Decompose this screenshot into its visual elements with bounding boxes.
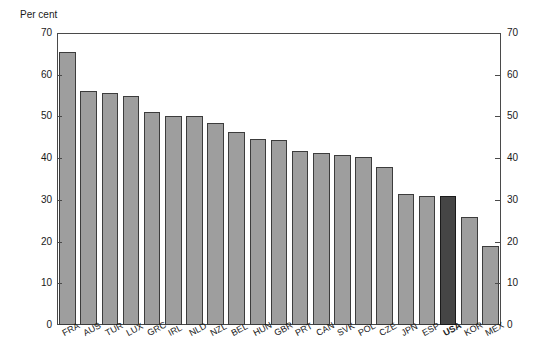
- tick-mark-right: [495, 75, 500, 76]
- bar-nld: [186, 116, 202, 325]
- y-tick-left-60: 60: [22, 70, 52, 80]
- bar-hun: [250, 139, 266, 325]
- y-tick-right-40: 40: [507, 153, 537, 163]
- y-axis-unit-label: Per cent: [20, 9, 57, 20]
- y-tick-left-40: 40: [22, 153, 52, 163]
- tick-mark-right: [495, 283, 500, 284]
- tick-mark-right: [495, 116, 500, 117]
- y-axis-right: 010203040506070: [507, 33, 541, 325]
- y-tick-left-50: 50: [22, 111, 52, 121]
- y-tick-right-50: 50: [507, 111, 537, 121]
- y-tick-right-20: 20: [507, 237, 537, 247]
- bar-irl: [165, 116, 181, 325]
- bar-prt: [292, 151, 308, 325]
- bar-nzl: [207, 123, 223, 325]
- bar-chart: Per cent 010203040506070 010203040506070…: [0, 0, 553, 362]
- bar-aus: [80, 91, 96, 325]
- bar-tur: [102, 93, 118, 325]
- tick-mark-left: [57, 116, 62, 117]
- y-tick-left-30: 30: [22, 195, 52, 205]
- bar-usa: [440, 196, 456, 325]
- bar-svk: [334, 155, 350, 325]
- tick-mark-right: [495, 200, 500, 201]
- bar-mex: [482, 246, 498, 325]
- bar-lux: [123, 96, 139, 325]
- y-axis-left: 010203040506070: [20, 33, 52, 325]
- y-tick-right-60: 60: [507, 70, 537, 80]
- bar-grc: [144, 112, 160, 325]
- tick-mark-right: [495, 158, 500, 159]
- tick-mark-left: [57, 75, 62, 76]
- bar-kor: [461, 217, 477, 325]
- y-tick-left-10: 10: [22, 278, 52, 288]
- tick-mark-left: [57, 283, 62, 284]
- tick-mark-left: [57, 242, 62, 243]
- bar-bel: [228, 132, 244, 325]
- bar-gbr: [271, 140, 287, 325]
- bar-cze: [376, 167, 392, 325]
- x-axis-category-labels: FRAAUSTURLUXGRCIRLNLDNZLBELHUNGBRPRTCANS…: [57, 326, 501, 362]
- tick-mark-left: [57, 158, 62, 159]
- bar-jpn: [398, 194, 414, 325]
- tick-mark-left: [57, 200, 62, 201]
- bars-group: [57, 33, 501, 325]
- y-tick-right-0: 0: [507, 320, 537, 330]
- bar-esp: [419, 196, 435, 325]
- y-tick-right-30: 30: [507, 195, 537, 205]
- bar-pol: [355, 157, 371, 325]
- y-tick-left-70: 70: [22, 28, 52, 38]
- y-tick-right-10: 10: [507, 278, 537, 288]
- x-label-irl: IRL: [167, 323, 184, 338]
- bar-can: [313, 153, 329, 325]
- y-tick-left-20: 20: [22, 237, 52, 247]
- y-tick-right-70: 70: [507, 28, 537, 38]
- y-tick-left-0: 0: [22, 320, 52, 330]
- tick-mark-right: [495, 242, 500, 243]
